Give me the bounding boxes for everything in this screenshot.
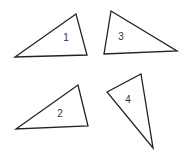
triangle-4: 4	[107, 74, 153, 148]
triangle-4-label: 4	[125, 94, 131, 105]
triangle-3-shape	[104, 11, 177, 54]
triangle-3: 3	[104, 11, 177, 54]
triangle-1: 1	[15, 14, 87, 57]
triangle-2: 2	[16, 85, 88, 129]
triangle-2-label: 2	[57, 108, 63, 119]
triangle-1-shape	[15, 14, 87, 57]
triangle-2-shape	[16, 85, 88, 129]
triangle-3-label: 3	[118, 31, 124, 42]
triangles-diagram: 1 3 2 4	[0, 0, 190, 157]
triangle-1-label: 1	[63, 32, 69, 43]
triangle-4-shape	[107, 74, 153, 148]
